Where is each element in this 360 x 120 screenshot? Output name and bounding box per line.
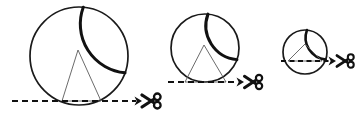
- scissors-icon: [142, 94, 161, 109]
- scissors-handle-upper: [154, 94, 161, 101]
- circle-heavy-arc-medium: [206, 14, 237, 60]
- scissors-handle-upper: [256, 75, 262, 81]
- large-circle-panel: [12, 7, 161, 109]
- scissors-icon: [337, 54, 354, 68]
- triangle-medium: [185, 45, 226, 82]
- small-circle-panel: [281, 30, 354, 74]
- medium-circle-panel: [168, 14, 262, 89]
- arrow-head-small: [329, 56, 337, 65]
- circle-heavy-arc-large: [80, 7, 125, 73]
- circle-cut-diagram: [0, 0, 360, 120]
- scissors-handle-lower: [256, 83, 262, 89]
- arrow-head-medium: [237, 77, 245, 86]
- scissors-icon: [245, 75, 263, 89]
- scissors-handle-upper: [348, 54, 354, 60]
- scissors-handle-lower: [154, 102, 161, 109]
- scissors-handle-lower: [348, 62, 354, 68]
- diagram-canvas: [0, 0, 360, 120]
